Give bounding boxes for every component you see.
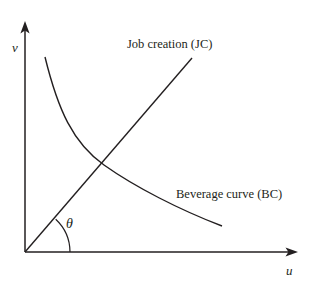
angle-theta-label: θ bbox=[66, 216, 73, 231]
x-axis bbox=[25, 247, 298, 256]
x-axis-label: u bbox=[286, 263, 293, 278]
y-axis bbox=[20, 21, 29, 252]
job-creation-line bbox=[25, 58, 192, 252]
job-creation-label: Job creation (JC) bbox=[127, 37, 212, 51]
beveridge-curve-figure: v u θ Job creation (JC) Beverage curve (… bbox=[0, 0, 324, 285]
y-axis-label: v bbox=[12, 40, 18, 55]
beverage-curve-label: Beverage curve (BC) bbox=[176, 187, 282, 201]
diagram-canvas: v u θ Job creation (JC) Beverage curve (… bbox=[0, 0, 324, 285]
